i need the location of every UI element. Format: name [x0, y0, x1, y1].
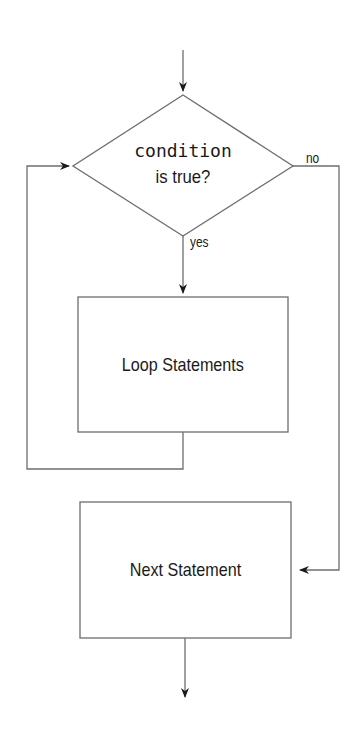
- loop-statements-label: Loop Statements: [122, 354, 244, 376]
- no-arrow: [293, 166, 339, 570]
- decision-line2: is true?: [86, 166, 280, 188]
- no-label: no: [306, 150, 319, 166]
- next-statement-label-wrap: Next Statement: [80, 502, 291, 638]
- yes-label: yes: [190, 234, 209, 250]
- next-statement-label: Next Statement: [130, 559, 241, 581]
- loop-statements-label-wrap: Loop Statements: [78, 297, 288, 432]
- decision-line1: condition: [73, 140, 293, 161]
